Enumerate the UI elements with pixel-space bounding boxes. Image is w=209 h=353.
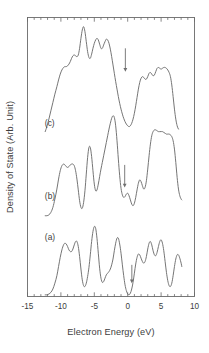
x-tick-labels: -15-10-50510 bbox=[22, 302, 200, 311]
x-tick-label: -15 bbox=[22, 302, 34, 311]
curve-label-b: (b) bbox=[45, 191, 55, 201]
curve-a bbox=[45, 226, 182, 295]
curve-label-c: (c) bbox=[45, 118, 55, 128]
x-tick-label: 0 bbox=[125, 302, 130, 311]
curve-label-a: (a) bbox=[45, 232, 55, 242]
plot-frame bbox=[28, 18, 195, 297]
x-axis-label: Electron Energy (eV) bbox=[67, 327, 154, 337]
arrow-curve-a bbox=[130, 265, 134, 283]
curve-b bbox=[45, 116, 182, 216]
arrow-curve-b bbox=[123, 165, 127, 187]
arrow-curve-c bbox=[123, 48, 127, 71]
y-axis-label: Density of State (Arb. Unit) bbox=[5, 101, 15, 213]
x-tick-label: 10 bbox=[190, 302, 200, 311]
curve-c bbox=[45, 27, 178, 132]
figure-container: -15-10-50510 (a)(b)(c) Electron Energy (… bbox=[0, 0, 209, 353]
arrow-annotations bbox=[123, 48, 134, 283]
axis-ticks bbox=[28, 18, 195, 297]
data-curves bbox=[45, 27, 182, 295]
x-tick-label: 5 bbox=[159, 302, 164, 311]
x-tick-label: -5 bbox=[91, 302, 99, 311]
density-of-states-plot: -15-10-50510 (a)(b)(c) Electron Energy (… bbox=[0, 0, 209, 353]
curve-labels: (a)(b)(c) bbox=[45, 118, 55, 242]
x-tick-label: -10 bbox=[55, 302, 67, 311]
